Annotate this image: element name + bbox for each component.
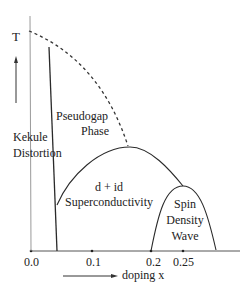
x-tick-label-0.25: 0.25 [173,256,194,269]
tick-0.1 [91,250,94,253]
doping-arrow-head [111,274,118,278]
sc-label-line1: d + id [95,181,123,194]
pseudogap-label-line1: Pseudogap [56,110,108,123]
pseudogap-crossover-line [29,31,128,146]
sc-label-line2: Superconductivity [65,196,153,209]
sdw-label-line1: Spin [168,198,202,211]
sdw-label-line3: Wave [166,230,204,243]
x-tick-label-0.1: 0.1 [86,256,101,269]
y-axis-label: T [12,30,20,43]
x-axis-label: doping x [122,269,164,282]
sdw-label-line2: Density [164,214,206,227]
kekule-label-line1: Kekule [13,131,48,144]
phase-diagram: T Kekule Distortion Pseudogap Phase d + … [0,0,248,293]
kekule-label-line2: Distortion [13,147,62,160]
x-tick-label-0.0: 0.0 [24,256,39,269]
t-arrow-head [14,56,18,63]
tick-0.25 [182,250,185,253]
pseudogap-label-line2: Phase [81,125,109,138]
